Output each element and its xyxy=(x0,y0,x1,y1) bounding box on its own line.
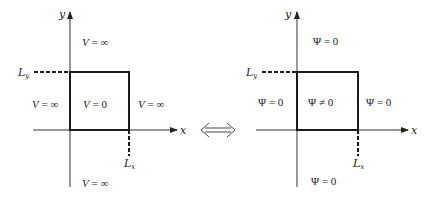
left-top-region-label: V = ∞ xyxy=(82,36,108,48)
right-top-region-label: Ψ = 0 xyxy=(313,35,339,47)
potential-well-diagram: y x Ly Lx V = ∞ V = ∞ V = 0 V = ∞ V = ∞ … xyxy=(0,0,426,197)
right-lx-label: Lx xyxy=(352,157,364,171)
right-left-region-label: Ψ = 0 xyxy=(258,96,284,108)
left-bottom-region-label: V = ∞ xyxy=(82,177,108,189)
right-diagram: y x Ly Lx Ψ = 0 Ψ = 0 Ψ ≠ 0 Ψ = 0 Ψ = 0 xyxy=(245,8,418,187)
left-diagram: y x Ly Lx V = ∞ V = ∞ V = 0 V = ∞ V = ∞ xyxy=(17,8,187,189)
equivalence-double-arrow-icon xyxy=(201,123,235,137)
left-lx-label: Lx xyxy=(123,157,135,171)
left-left-region-label: V = ∞ xyxy=(32,98,58,110)
left-right-region-label: V = ∞ xyxy=(138,98,164,110)
right-y-axis-label: y xyxy=(284,8,292,21)
right-x-axis-label: x xyxy=(411,124,418,137)
left-inside-region-label: V = 0 xyxy=(83,98,107,110)
left-x-axis-label: x xyxy=(180,124,187,137)
left-ly-label: Ly xyxy=(17,66,30,80)
right-ly-label: Ly xyxy=(245,66,258,80)
right-right-region-label: Ψ = 0 xyxy=(366,96,392,108)
right-bottom-region-label: Ψ = 0 xyxy=(311,175,337,187)
left-y-axis-label: y xyxy=(58,8,66,21)
right-inside-region-label: Ψ ≠ 0 xyxy=(308,96,334,108)
